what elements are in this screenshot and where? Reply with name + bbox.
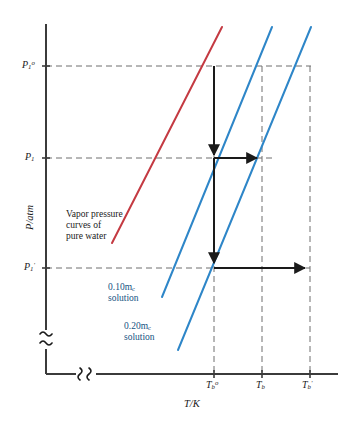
annotation-pure-water-line-3: pure water — [66, 231, 123, 242]
annotation-solution-010-line-1: 0.10mc — [108, 282, 139, 293]
x-tick-label-tb-prime: Tb′ — [302, 379, 312, 392]
annotation-solution-020-line-2: solution — [124, 332, 155, 343]
y-tick-label-p1-prime: P1′ — [24, 261, 35, 274]
y-axis-title: P/atm — [24, 205, 36, 230]
guide-lines-vertical — [214, 66, 310, 374]
annotation-pure-water-line-2: curves of — [66, 220, 123, 231]
annotation-solution-020-subscript: c — [148, 324, 151, 331]
x-tick-label-tb-std: Tbo — [206, 379, 218, 392]
annotation-solution-020-molality: 0.20m — [124, 321, 148, 331]
axis-break-x-icon — [78, 368, 91, 380]
annotation-solution-010: 0.10mc solution — [108, 282, 139, 304]
annotation-solution-010-line-2: solution — [108, 293, 139, 304]
x-axis-title: T/K — [184, 398, 200, 410]
annotation-solution-020-line-1: 0.20mc — [124, 321, 155, 332]
x-tick-label-tb: Tb — [256, 379, 265, 392]
annotation-solution-020: 0.20mc solution — [124, 321, 155, 343]
annotation-solution-010-subscript: c — [132, 285, 135, 292]
annotation-pure-water-line-1: Vapor pressure — [66, 209, 123, 220]
axis-break-y-icon — [40, 332, 52, 345]
curve-pure-water — [112, 27, 222, 243]
annotation-pure-water: Vapor pressure curves of pure water — [66, 209, 123, 243]
annotation-solution-010-molality: 0.10m — [108, 282, 132, 292]
process-arrows — [214, 66, 305, 268]
vapor-pressure-diagram: P1o P1 P1′ Tbo Tb Tb′ P/atm T/K Vapor pr… — [0, 0, 352, 425]
y-tick-label-p1-std: P1o — [22, 59, 35, 72]
y-tick-label-p1: P1 — [25, 151, 35, 164]
diagram-canvas — [0, 0, 352, 425]
